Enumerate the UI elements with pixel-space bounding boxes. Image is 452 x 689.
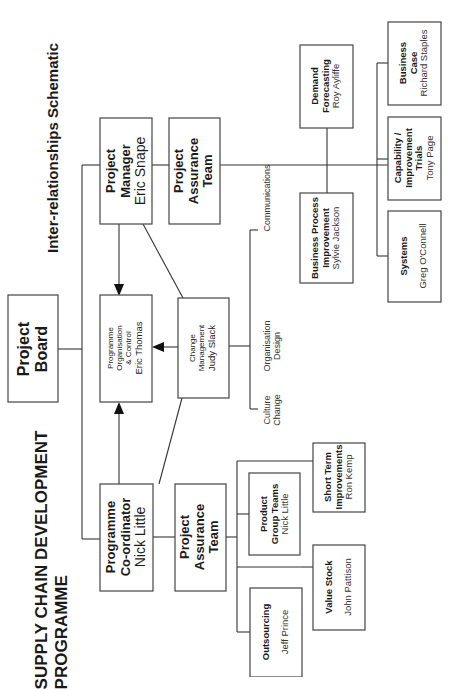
person-name: Richard Staples xyxy=(419,29,430,96)
node-project-assurance-bottom: Project Assurance Team xyxy=(178,504,222,570)
node-product-group-teams: Product Group Teams Nick Little xyxy=(259,484,291,545)
main-title: SUPPLY CHAIN DEVELOPMENT PROGRAMME xyxy=(32,431,71,689)
node-systems: Systems Greg O'Connell xyxy=(399,223,428,288)
label-line: Project xyxy=(178,504,193,570)
node-capability-improvement-trials: Capability / Improvement Trials Tony Pag… xyxy=(393,128,436,188)
node-change-management: Change Management Judy Slack xyxy=(189,325,218,372)
person-name: Judy Slack xyxy=(207,325,218,372)
node-programme-org-control: Programme Organisation & Control Eric Th… xyxy=(107,321,144,374)
label-line: Change xyxy=(272,394,282,426)
label-line: Assurance xyxy=(193,504,208,570)
arrow-left-icon xyxy=(152,342,164,352)
label-line: Outsourcing xyxy=(261,604,272,660)
label-line: Team xyxy=(207,504,222,570)
label-line: Communications xyxy=(262,164,272,231)
label-line: Project xyxy=(172,138,187,204)
node-value-stock: Value Stock John Pattison xyxy=(324,558,353,616)
node-outsourcing: Outsourcing Jeff Prince xyxy=(261,604,290,660)
arrow-down-icon xyxy=(114,284,124,296)
change-area-communications: Communications xyxy=(262,164,272,231)
title-line-2: PROGRAMME xyxy=(52,431,72,689)
label-line: Manager xyxy=(118,137,133,205)
person-name: Greg O'Connell xyxy=(418,223,429,288)
arrow-up-icon xyxy=(114,402,124,414)
person-name: Eric Thomas xyxy=(134,321,145,374)
label-line: Value Stock xyxy=(324,558,335,616)
label-line: Culture xyxy=(262,394,272,426)
person-name: Roy Ayliffe xyxy=(331,59,342,113)
change-area-culture-change: Culture Change xyxy=(262,394,282,426)
label-line: Co-ordinator xyxy=(118,498,133,577)
node-business-process-improvement: Business Process Improvement Sylvie Jack… xyxy=(310,197,342,279)
person-name: Nick Little xyxy=(133,498,149,577)
person-name: John Pattison xyxy=(343,558,354,616)
label-line: Board xyxy=(33,322,51,376)
person-name: Ron Kemp xyxy=(344,445,355,510)
person-name: Sylvie Jackson xyxy=(331,197,342,279)
title-line-1: SUPPLY CHAIN DEVELOPMENT xyxy=(32,431,52,689)
node-project-assurance-top: Project Assurance Team xyxy=(172,138,216,204)
person-name: Eric Snape xyxy=(133,137,149,205)
person-name: Jeff Prince xyxy=(280,604,291,660)
change-area-organisation-design: Organisation Design xyxy=(262,320,282,371)
label-line: Design xyxy=(272,320,282,371)
person-name: Nick Little xyxy=(280,484,291,545)
label-line: Programme xyxy=(104,498,119,577)
label-line: Project xyxy=(15,322,33,376)
subtitle: Inter-relationships Schematic xyxy=(44,43,61,253)
node-demand-forecasting: Demand Forecasting Roy Ayliffe xyxy=(310,59,342,113)
person-name: Tony Page xyxy=(425,128,436,188)
label-line: Organisation xyxy=(262,320,272,371)
node-programme-coordinator: Programme Co-ordinator Nick Little xyxy=(104,498,149,577)
node-project-board: Project Board xyxy=(15,322,51,376)
node-business-case: Business Case Richard Staples xyxy=(398,29,430,96)
label-line: Systems xyxy=(399,223,410,288)
node-project-manager: Project Manager Eric Snape xyxy=(104,137,149,205)
label-line: Project xyxy=(104,137,119,205)
label-line: Team xyxy=(201,138,216,204)
node-short-term-improvements: Short Term Improvements Ron Kemp xyxy=(323,445,355,510)
label-line: Assurance xyxy=(187,138,202,204)
